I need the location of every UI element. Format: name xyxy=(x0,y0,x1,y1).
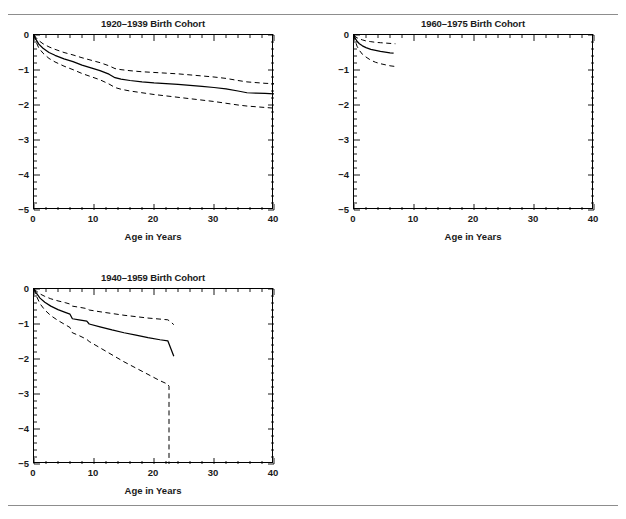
x-tick-label: 0 xyxy=(30,213,35,224)
x-tick-label: 0 xyxy=(30,467,35,478)
series-upper_ci xyxy=(34,35,274,84)
x-tick-label: 30 xyxy=(528,213,539,224)
y-tick-label: −5 xyxy=(329,204,349,215)
y-tick-label: −2 xyxy=(9,99,29,110)
x-tick-label: 10 xyxy=(88,213,99,224)
panel-1960-1975: 1960–1975 Birth Cohort 0102030400−1−2−3−… xyxy=(328,18,618,256)
plot-canvas xyxy=(34,35,274,210)
x-tick-label: 40 xyxy=(588,213,599,224)
plot-area xyxy=(353,34,593,209)
series-lower_ci xyxy=(34,289,169,464)
x-tick-label: 40 xyxy=(268,213,279,224)
x-tick-label: 30 xyxy=(208,213,219,224)
x-axis-label: Age in Years xyxy=(328,231,618,242)
x-tick-label: 0 xyxy=(350,213,355,224)
y-tick-label: −2 xyxy=(9,353,29,364)
panel-title: 1960–1975 Birth Cohort xyxy=(328,18,618,29)
panel-1920-1939: 1920–1939 Birth Cohort 0102030400−1−2−3−… xyxy=(8,18,298,256)
x-tick-label: 40 xyxy=(268,467,279,478)
y-tick-label: −3 xyxy=(329,134,349,145)
panel-title: 1940–1959 Birth Cohort xyxy=(8,272,298,283)
series-upper_ci xyxy=(354,35,395,44)
y-tick-label: −4 xyxy=(9,423,29,434)
plot-area xyxy=(33,288,273,463)
y-tick-label: −2 xyxy=(329,99,349,110)
plot-canvas xyxy=(354,35,594,210)
y-tick-label: 0 xyxy=(9,283,29,294)
series-estimate xyxy=(34,289,174,356)
y-tick-label: −3 xyxy=(9,388,29,399)
page-header-fragment xyxy=(10,0,330,12)
y-tick-label: 0 xyxy=(329,29,349,40)
series-upper_ci xyxy=(34,289,174,325)
y-tick-label: −1 xyxy=(329,64,349,75)
y-tick-label: −5 xyxy=(9,204,29,215)
x-tick-label: 10 xyxy=(408,213,419,224)
series-estimate xyxy=(354,35,394,53)
x-tick-label: 30 xyxy=(208,467,219,478)
x-tick-label: 10 xyxy=(88,467,99,478)
top-divider-rule xyxy=(8,14,618,15)
series-estimate xyxy=(34,35,274,94)
x-tick-label: 20 xyxy=(468,213,479,224)
y-tick-label: −1 xyxy=(9,318,29,329)
y-tick-label: −4 xyxy=(9,169,29,180)
y-tick-label: 0 xyxy=(9,29,29,40)
plot-canvas xyxy=(34,289,274,464)
plot-area xyxy=(33,34,273,209)
x-tick-label: 20 xyxy=(148,467,159,478)
x-tick-label: 20 xyxy=(148,213,159,224)
series-lower_ci xyxy=(34,35,274,108)
axis-ticks xyxy=(354,35,594,210)
panel-title: 1920–1939 Birth Cohort xyxy=(8,18,298,29)
panel-1940-1959: 1940–1959 Birth Cohort 0102030400−1−2−3−… xyxy=(8,272,298,510)
x-axis-label: Age in Years xyxy=(8,231,298,242)
x-axis-label: Age in Years xyxy=(8,485,298,496)
y-tick-label: −4 xyxy=(329,169,349,180)
y-tick-label: −3 xyxy=(9,134,29,145)
y-tick-label: −1 xyxy=(9,64,29,75)
y-tick-label: −5 xyxy=(9,458,29,469)
